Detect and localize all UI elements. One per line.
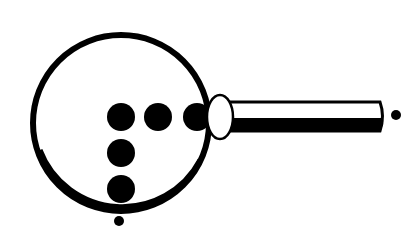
handle (228, 102, 383, 131)
dot (144, 103, 172, 131)
dot (107, 139, 135, 167)
ferrule (207, 95, 233, 139)
dot (107, 175, 135, 203)
magnifier-illustration: magnifying glass over braille-like dot p… (0, 0, 404, 233)
dot (107, 103, 135, 131)
marker-dot-right (391, 110, 401, 120)
marker-dot-bottom (114, 216, 124, 226)
magnifying-glass-icon (0, 0, 404, 233)
